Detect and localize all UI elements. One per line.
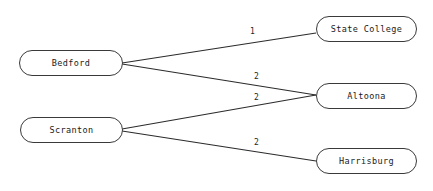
node-scranton[interactable]: Scranton	[20, 117, 123, 143]
node-bedford[interactable]: Bedford	[19, 50, 123, 76]
node-altoona-label: Altoona	[347, 92, 386, 101]
edge-bedford-altoona[interactable]	[122, 64, 316, 95]
node-scranton-label: Scranton	[49, 126, 93, 135]
edge-label-bedford-altoona: 2	[254, 73, 259, 81]
node-state-college[interactable]: State College	[316, 16, 417, 42]
node-bedford-label: Bedford	[52, 59, 91, 68]
edge-label-scranton-harrisburg: 2	[254, 139, 259, 147]
edge-scranton-altoona[interactable]	[122, 95, 316, 129]
node-state-college-label: State College	[331, 25, 403, 34]
node-harrisburg-label: Harrisburg	[339, 157, 394, 166]
edge-label-bedford-state-college: 1	[250, 28, 255, 36]
edge-label-scranton-altoona: 2	[254, 94, 259, 102]
edge-bedford-state-college[interactable]	[122, 33, 316, 63]
edge-scranton-harrisburg[interactable]	[122, 131, 316, 161]
node-altoona[interactable]: Altoona	[316, 83, 417, 109]
node-harrisburg[interactable]: Harrisburg	[316, 148, 417, 174]
diagram-canvas: Bedford Scranton State College Altoona H…	[0, 0, 433, 191]
